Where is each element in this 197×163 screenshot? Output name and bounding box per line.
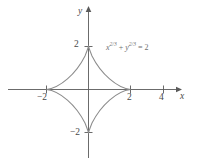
x-tick-label-4: 4 [159,93,164,103]
y-tick-label-pos2: 2 [74,40,79,50]
equation-plus-operator: + [117,43,126,52]
y-axis-label: y [78,7,82,17]
equation-x-exponent: 2/3 [110,41,117,47]
equation-y-exponent: 2/3 [129,41,136,47]
curve-equation-annotation: x2/3 + y2/3 = 2 [106,42,148,52]
y-axis [86,6,92,158]
y-axis-arrow-icon [86,6,92,12]
astroid-graph-figure: −2 2 4 2 −2 x y x2/3 + y2/3 = 2 [0,0,197,163]
x-axis [8,87,182,93]
y-tick-label-neg2: −2 [70,128,80,138]
x-tick-label-neg2: −2 [37,93,47,103]
equation-equals-value: = 2 [136,43,149,52]
x-tick-label-pos2: 2 [127,93,132,103]
plot-canvas [0,0,197,163]
x-axis-label: x [180,92,184,102]
